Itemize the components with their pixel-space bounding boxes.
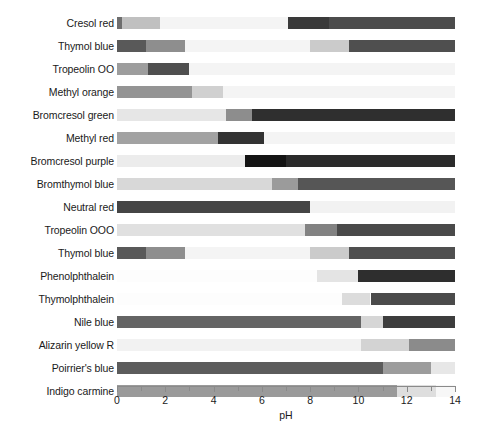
indicator-band: [117, 362, 383, 374]
indicator-row: Cresol red: [0, 17, 477, 40]
indicator-band: [117, 132, 218, 144]
indicator-bar: [117, 362, 455, 374]
indicator-label: Tropeolin OOO: [44, 224, 114, 237]
indicator-bar: [117, 109, 455, 121]
indicator-label: Bromcresol green: [33, 109, 114, 122]
indicator-bar: [117, 155, 455, 167]
axis-tick-label: 2: [162, 394, 168, 406]
indicator-label: Neutral red: [63, 201, 114, 214]
indicator-bar: [117, 132, 455, 144]
axis-tick: [141, 386, 142, 391]
indicator-band: [148, 63, 189, 75]
indicator-bar: [117, 63, 455, 75]
indicator-band: [192, 86, 223, 98]
indicator-band: [383, 362, 431, 374]
indicator-label: Thymol blue: [58, 40, 114, 53]
indicator-band: [431, 362, 455, 374]
indicator-label: Thymol blue: [58, 247, 114, 260]
indicator-band: [383, 316, 455, 328]
indicator-label: Methyl orange: [49, 86, 114, 99]
axis-tick: [238, 386, 239, 391]
indicator-band: [117, 270, 317, 282]
indicator-band: [252, 109, 455, 121]
axis-tick: [334, 386, 335, 391]
axis-tick-label: 14: [449, 394, 461, 406]
axis-tick: [310, 386, 311, 392]
indicator-label: Tropeolin OO: [53, 63, 114, 76]
indicator-label: Nile blue: [74, 316, 114, 329]
axis-tick: [286, 386, 287, 391]
axis-title: pH: [117, 409, 455, 421]
indicator-band: [317, 270, 358, 282]
indicator-band: [117, 293, 342, 305]
axis-tick-label: 6: [259, 394, 265, 406]
indicator-row: Alizarin yellow R: [0, 339, 477, 362]
indicator-row: Thymolphthalein: [0, 293, 477, 316]
axis-tick-label: 8: [307, 394, 313, 406]
indicator-label: Methyl red: [66, 132, 114, 145]
indicator-band: [160, 17, 288, 29]
indicator-row: Methyl orange: [0, 86, 477, 109]
indicator-band: [361, 316, 383, 328]
indicator-row: Thymol blue: [0, 247, 477, 270]
indicator-band: [349, 247, 455, 259]
indicator-band: [349, 40, 455, 52]
axis-tick-label: 0: [114, 394, 120, 406]
indicator-band: [245, 155, 286, 167]
indicator-band: [310, 201, 455, 213]
indicator-row: Methyl red: [0, 132, 477, 155]
indicator-bar: [117, 293, 455, 305]
indicator-label: Bromcresol purple: [31, 155, 115, 168]
indicator-band: [371, 293, 456, 305]
axis-tick: [262, 386, 263, 392]
indicator-band: [117, 247, 146, 259]
indicator-bar: [117, 17, 455, 29]
indicator-band: [342, 293, 371, 305]
axis-tick: [165, 386, 166, 392]
axis-tick: [431, 386, 432, 391]
axis-tick: [358, 386, 359, 392]
indicator-label: Bromthymol blue: [37, 178, 114, 191]
indicator-band: [286, 155, 455, 167]
indicator-band: [122, 17, 161, 29]
indicator-bar: [117, 40, 455, 52]
indicator-band: [117, 109, 226, 121]
indicator-row: Nile blue: [0, 316, 477, 339]
indicator-bar: [117, 86, 455, 98]
axis-tick: [189, 386, 190, 391]
indicator-band: [117, 86, 192, 98]
indicator-band: [117, 201, 310, 213]
indicator-band: [117, 339, 361, 351]
indicator-label: Indigo carmine: [47, 385, 114, 398]
indicator-row: Bromcresol green: [0, 109, 477, 132]
indicator-row: Tropeolin OOO: [0, 224, 477, 247]
indicator-band: [117, 224, 305, 236]
axis-tick: [383, 386, 384, 391]
indicator-band: [226, 109, 253, 121]
indicator-band: [185, 40, 311, 52]
indicator-band: [288, 17, 329, 29]
indicator-row: Poirrier's blue: [0, 362, 477, 385]
indicator-row: Phenolphthalein: [0, 270, 477, 293]
indicator-row-list: Cresol redThymol blueTropeolin OOMethyl …: [0, 17, 477, 408]
indicator-bar: [117, 178, 455, 190]
indicator-band: [146, 247, 185, 259]
axis-tick: [455, 386, 456, 392]
indicator-band: [310, 247, 349, 259]
indicator-band: [298, 178, 455, 190]
indicator-label: Alizarin yellow R: [39, 339, 114, 352]
axis-tick-label: 10: [353, 394, 365, 406]
indicator-band: [310, 40, 349, 52]
indicator-band: [337, 224, 455, 236]
indicator-band: [117, 63, 148, 75]
indicator-band: [272, 178, 299, 190]
indicator-bar: [117, 339, 455, 351]
indicator-label: Poirrier's blue: [52, 362, 114, 375]
indicator-band: [361, 339, 409, 351]
indicator-bar: [117, 201, 455, 213]
indicator-label: Phenolphthalein: [40, 270, 114, 283]
indicator-row: Bromthymol blue: [0, 178, 477, 201]
indicator-band: [305, 224, 336, 236]
axis-tick-label: 12: [401, 394, 413, 406]
indicator-band: [189, 63, 455, 75]
